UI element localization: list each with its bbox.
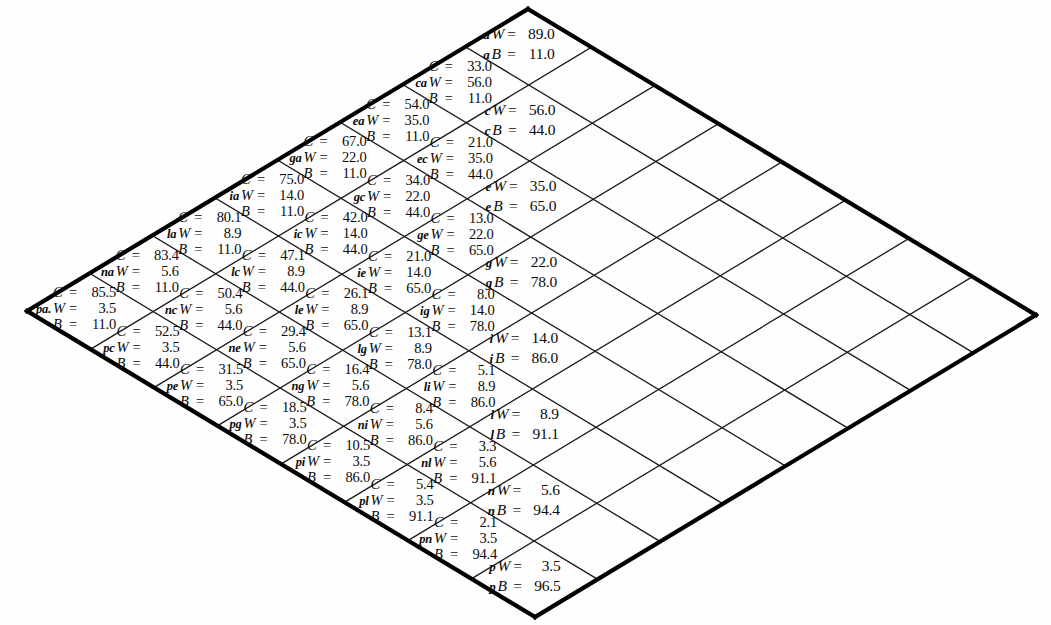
value-row-W: aW=89.0 xyxy=(469,26,587,46)
value-row-W: pgW=3.5 xyxy=(222,416,340,432)
cell-tag: ia xyxy=(219,190,241,203)
value-C: 5.1 xyxy=(457,363,495,378)
symbol-W: W xyxy=(306,378,321,393)
symbol-W: W xyxy=(179,302,194,317)
value-C: 52.5 xyxy=(142,324,180,339)
value-row-C: C=16.4 xyxy=(284,362,402,378)
symbol-C: C xyxy=(370,401,385,416)
symbol-C: C xyxy=(242,248,257,263)
value-C: 83.4 xyxy=(141,248,179,263)
equals-sign: = xyxy=(449,531,459,546)
cell-label-layer: aW=89.0aB=11.0C=33.0caW=56.0B=11.0cW=56.… xyxy=(0,0,1051,625)
equals-sign: = xyxy=(320,302,330,317)
value-row-C: C=54.0 xyxy=(344,97,462,113)
value-W: 3.5 xyxy=(269,416,307,431)
value-W: 3.5 xyxy=(396,493,434,508)
symbol-B: B xyxy=(244,432,259,447)
value-C: 85.5 xyxy=(78,285,116,300)
value-C: 26.1 xyxy=(330,286,368,301)
symbol-W: W xyxy=(431,227,446,242)
value-row-B: pB=96.5 xyxy=(476,578,594,598)
equals-sign: = xyxy=(444,75,454,90)
symbol-C: C xyxy=(243,324,258,339)
value-row-C: C=3.3 xyxy=(411,439,529,455)
value-row-W: pa.W=3.5 xyxy=(31,301,149,317)
symbol-C: C xyxy=(369,325,384,340)
equals-sign: = xyxy=(195,378,205,393)
equals-sign: = xyxy=(256,188,266,203)
symbol-C: C xyxy=(432,363,447,378)
symbol-C: C xyxy=(367,173,382,188)
value-W: 8.9 xyxy=(394,341,432,356)
equals-sign: = xyxy=(258,324,268,339)
value-C: 80.1 xyxy=(203,210,241,225)
value-C: 3.3 xyxy=(458,439,496,454)
value-row-W: pW=3.5 xyxy=(476,558,594,578)
symbol-C: C xyxy=(304,134,319,149)
symbol-W: W xyxy=(433,455,448,470)
value-C: 75.0 xyxy=(266,172,304,187)
value-C: 2.1 xyxy=(459,515,497,530)
value-W: 14.0 xyxy=(456,303,494,318)
symbol-W: W xyxy=(369,341,384,356)
equals-sign: = xyxy=(68,285,78,300)
symbol-C: C xyxy=(117,324,132,339)
cell-tag: pn xyxy=(412,533,434,546)
value-row-C: C=47.1 xyxy=(220,248,338,264)
symbol-W: W xyxy=(243,340,258,355)
value-row-W: peW=3.5 xyxy=(158,378,276,394)
value-W: 35.0 xyxy=(518,178,556,194)
value-row-W: iW=14.0 xyxy=(473,330,591,350)
value-W: 5.6 xyxy=(204,302,242,317)
equals-sign: = xyxy=(193,210,203,225)
value-C: 5.4 xyxy=(396,477,434,492)
symbol-W: W xyxy=(180,378,195,393)
cell-tag: ea xyxy=(344,115,366,128)
symbol-W: W xyxy=(305,302,320,317)
value-row-C: C=18.5 xyxy=(222,400,340,416)
equals-sign: = xyxy=(513,558,523,574)
value-C: 31.5 xyxy=(205,362,243,377)
equals-sign: = xyxy=(513,578,523,594)
equals-sign: = xyxy=(256,172,266,187)
symbol-B: B xyxy=(117,356,132,371)
equals-sign: = xyxy=(445,135,455,150)
value-C: 67.0 xyxy=(329,134,367,149)
symbol-W: W xyxy=(117,340,132,355)
equals-sign: = xyxy=(511,406,521,422)
cell-tag: la xyxy=(156,228,178,241)
symbol-W: W xyxy=(368,265,383,280)
equals-sign: = xyxy=(322,438,332,453)
cell-tag: nc xyxy=(157,304,179,317)
cell-tag: lg xyxy=(347,343,369,356)
equals-sign: = xyxy=(386,509,396,524)
value-row-W: ieW=14.0 xyxy=(346,265,464,281)
symbol-W: W xyxy=(307,454,322,469)
cell-tag: ne xyxy=(221,342,243,355)
symbol-C: C xyxy=(180,362,195,377)
equals-sign: = xyxy=(132,356,142,371)
equals-sign: = xyxy=(381,97,391,112)
symbol-B: B xyxy=(307,470,322,485)
symbol-W: W xyxy=(116,264,131,279)
equals-sign: = xyxy=(193,226,203,241)
symbol-W: W xyxy=(497,482,512,498)
equals-sign: = xyxy=(381,113,391,128)
symbol-B: B xyxy=(53,317,68,332)
value-W: 8.9 xyxy=(267,264,305,279)
equals-sign: = xyxy=(131,248,141,263)
cell-tag: ng xyxy=(284,380,306,393)
equals-sign: = xyxy=(259,400,269,415)
value-row-W: nlW=5.6 xyxy=(411,455,529,471)
cell-tag: p xyxy=(476,560,498,573)
equals-sign: = xyxy=(386,477,396,492)
value-W: 3.5 xyxy=(459,531,497,546)
value-row-C: C=85.5 xyxy=(31,285,149,301)
value-row-W: pcW=3.5 xyxy=(95,340,213,356)
symbol-C: C xyxy=(368,249,383,264)
symbol-W: W xyxy=(494,254,509,270)
equals-sign: = xyxy=(322,470,332,485)
value-row-W: lW=8.9 xyxy=(474,406,592,426)
value-C: 33.0 xyxy=(454,59,492,74)
value-C: 42.0 xyxy=(329,210,367,225)
